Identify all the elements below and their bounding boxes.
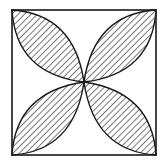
petal-square-diagram (0, 0, 163, 162)
